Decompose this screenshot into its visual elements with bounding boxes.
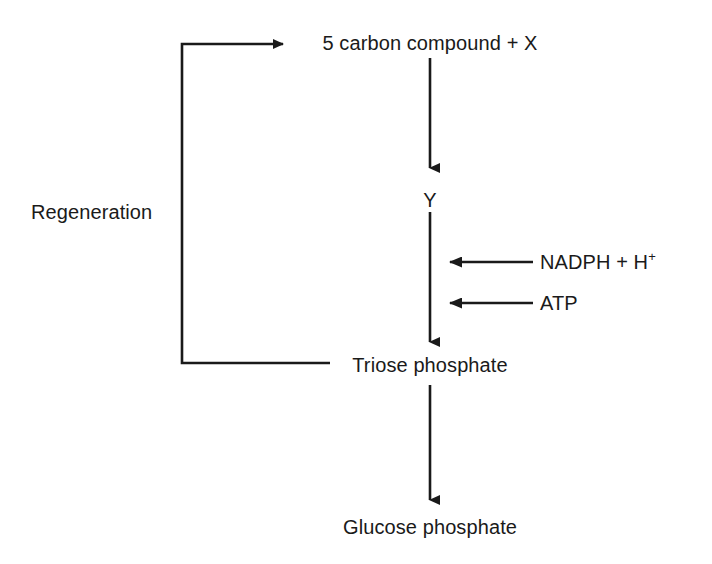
diagram-canvas: 5 carbon compound + X Y Triose phosphate…	[0, 0, 712, 564]
input-label-atp: ATP	[540, 293, 578, 313]
node-triose-phosphate-label: Triose phosphate	[352, 354, 507, 376]
node-glucose-phosphate: Glucose phosphate	[343, 517, 517, 537]
input-label-nadph-base: NADPH + H	[540, 251, 648, 273]
node-five-carbon-compound-label: 5 carbon compound + X	[322, 32, 537, 54]
edge-regeneration-loop	[182, 44, 330, 363]
node-five-carbon-compound: 5 carbon compound + X	[322, 33, 537, 53]
loop-label-regeneration: Regeneration	[31, 202, 152, 222]
input-label-nadph-superscript: +	[648, 249, 656, 264]
input-label-nadph: NADPH + H+	[540, 252, 656, 272]
loop-label-regeneration-text: Regeneration	[31, 201, 152, 223]
node-y-intermediate-label: Y	[423, 189, 436, 211]
node-y-intermediate: Y	[423, 190, 436, 210]
node-triose-phosphate: Triose phosphate	[352, 355, 507, 375]
node-glucose-phosphate-label: Glucose phosphate	[343, 516, 517, 538]
diagram-edges	[0, 0, 712, 564]
input-label-atp-text: ATP	[540, 292, 578, 314]
